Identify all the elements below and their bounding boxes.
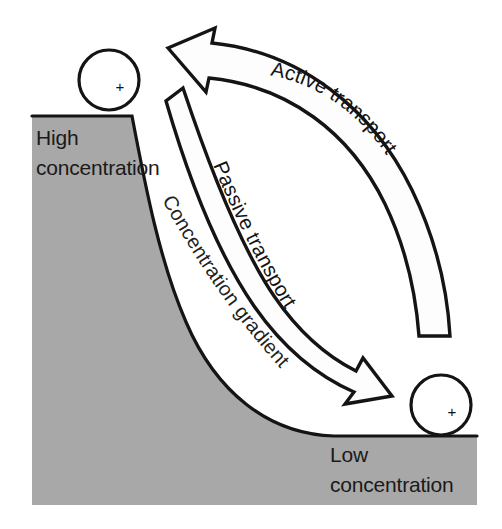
low-concentration-line-2: concentration: [330, 473, 453, 496]
low-concentration-line-1: Low: [330, 443, 369, 466]
high-concentration-line-1: High: [36, 126, 78, 149]
diagram-root: Active transport Passive transport Conce…: [0, 0, 502, 529]
particle-charge-high: +: [116, 78, 125, 95]
active-transport-label: Active transport: [269, 57, 402, 158]
particle-low-concentration: +: [411, 375, 471, 435]
transport-diagram-canvas: Active transport Passive transport Conce…: [0, 0, 502, 529]
particle-high-concentration: +: [79, 50, 139, 110]
particle-charge-low: +: [448, 403, 457, 420]
high-concentration-line-2: concentration: [36, 156, 159, 179]
particle-circle-low: [411, 375, 471, 435]
particle-circle-high: [79, 50, 139, 110]
